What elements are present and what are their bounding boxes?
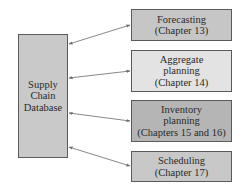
supply-chain-database-node: Supply Chain Database: [18, 34, 68, 158]
inventory-planning-node: Inventory planning (Chapters 15 and 16): [131, 100, 232, 142]
node-label-line: (Chapter 13): [155, 25, 208, 37]
node-label-line: Chain: [30, 90, 55, 102]
node-label-line: Forecasting: [157, 14, 206, 26]
arrow-database-forecasting: [69, 25, 130, 44]
forecasting-node: Forecasting (Chapter 13): [131, 9, 232, 41]
node-label-line: (Chapter 14): [155, 77, 208, 89]
arrow-database-aggregate-planning: [69, 71, 130, 78]
node-label-line: Database: [24, 102, 62, 114]
scheduling-node: Scheduling (Chapter 17): [131, 151, 232, 182]
node-label-line: Scheduling: [158, 155, 205, 167]
node-label-line: Inventory: [161, 104, 202, 116]
arrow-database-inventory-planning: [69, 113, 130, 121]
node-label-line: (Chapter 17): [155, 167, 208, 179]
node-label-line: planning: [163, 65, 200, 77]
node-label-line: Supply: [28, 79, 58, 91]
arrow-database-scheduling: [69, 147, 130, 166]
aggregate-planning-node: Aggregate planning (Chapter 14): [131, 50, 232, 92]
node-label-line: (Chapters 15 and 16): [137, 127, 225, 139]
node-label-line: planning: [163, 115, 200, 127]
node-label-line: Aggregate: [160, 54, 204, 66]
